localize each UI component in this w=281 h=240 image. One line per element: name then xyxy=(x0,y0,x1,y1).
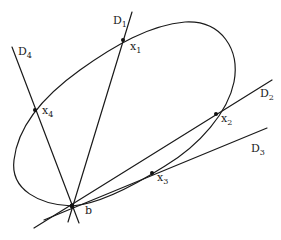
label-d2: D2 xyxy=(260,87,274,102)
line-d4 xyxy=(12,47,79,223)
point-x3 xyxy=(150,171,154,175)
diagram-svg: D1 D2 D3 D4 x1 x2 x3 x4 b xyxy=(0,0,281,240)
label-x4: x4 xyxy=(42,104,53,119)
point-x2 xyxy=(214,112,218,116)
point-x1 xyxy=(121,38,125,42)
label-d3: D3 xyxy=(251,142,265,157)
label-x1: x1 xyxy=(130,40,141,55)
diagram-canvas: D1 D2 D3 D4 x1 x2 x3 x4 b xyxy=(0,0,281,240)
label-b: b xyxy=(85,204,92,217)
label-d1: D1 xyxy=(113,14,127,29)
label-x2: x2 xyxy=(221,112,232,127)
label-x3: x3 xyxy=(157,171,168,186)
point-x4 xyxy=(33,108,37,112)
point-b xyxy=(70,204,75,209)
label-d4: D4 xyxy=(18,45,32,60)
line-d3 xyxy=(44,128,267,220)
